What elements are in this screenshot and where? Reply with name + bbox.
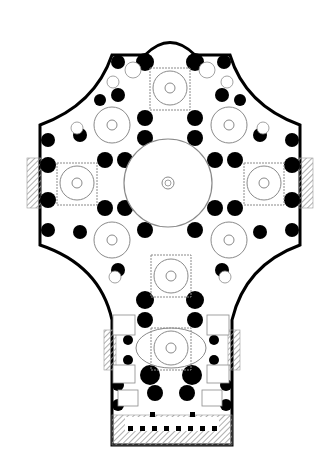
portico (112, 412, 232, 445)
floor-plan-diagram (0, 0, 335, 476)
central-dome (124, 139, 212, 227)
